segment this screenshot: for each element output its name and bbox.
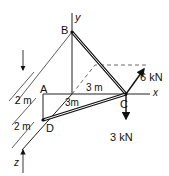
truss-diagram: y B A C D x z 3 m 3m 2 m 2 m 6 kN 3 kN (0, 0, 169, 176)
dim-2m-upper: 2 m (15, 96, 32, 106)
load-3kn-label: 3 kN (110, 132, 133, 143)
dim-2m-lower: 2 m (14, 122, 31, 132)
load-6kn-label: 6 kN (140, 72, 163, 83)
z-axis-label: z (14, 158, 19, 168)
y-axis-label: y (75, 12, 81, 23)
diagram-drawing (0, 0, 169, 176)
dim-3m-lower: 3m (65, 98, 79, 108)
point-b-label: B (61, 25, 68, 36)
x-axis-label: x (153, 88, 158, 98)
joint-b (70, 30, 73, 33)
point-c-label: C (120, 99, 128, 110)
dim-3m-top: 3 m (86, 83, 103, 93)
point-a-label: A (40, 84, 47, 95)
point-d-label: D (46, 123, 54, 134)
joint-d (41, 118, 44, 121)
